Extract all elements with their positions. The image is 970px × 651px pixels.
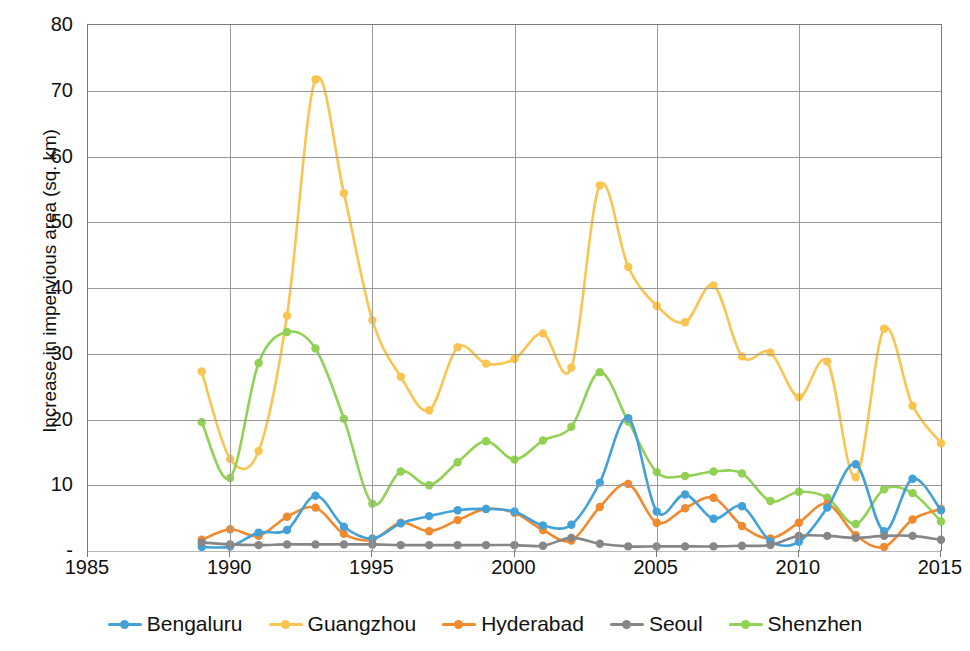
data-point <box>709 467 717 475</box>
series-bengaluru <box>198 414 946 551</box>
data-point <box>311 344 319 352</box>
data-point <box>539 542 547 550</box>
data-point <box>738 522 746 530</box>
y-axis-tick-label: 30 <box>13 341 73 364</box>
gridline-horizontal <box>88 551 941 552</box>
gridline-vertical <box>230 25 231 551</box>
x-axis-tick-mark <box>229 550 230 557</box>
data-point <box>482 359 490 367</box>
x-axis-tick-mark <box>514 550 515 557</box>
data-point <box>908 474 916 482</box>
data-point <box>425 512 433 520</box>
data-point <box>596 503 604 511</box>
data-point <box>254 447 262 455</box>
data-point <box>567 363 575 371</box>
data-point <box>738 542 746 550</box>
data-point <box>425 541 433 549</box>
data-point <box>852 534 860 542</box>
data-point <box>453 343 461 351</box>
x-axis-tick-label: 2000 <box>454 556 574 579</box>
data-point <box>908 401 916 409</box>
data-point <box>624 480 632 488</box>
data-point <box>908 515 916 523</box>
legend-item-seoul[interactable]: Seoul <box>610 612 703 636</box>
data-point <box>880 325 888 333</box>
data-point <box>852 520 860 528</box>
data-point <box>453 458 461 466</box>
data-point <box>709 542 717 550</box>
data-point <box>397 519 405 527</box>
x-axis-tick-mark <box>87 550 88 557</box>
data-point <box>738 469 746 477</box>
data-point <box>340 530 348 538</box>
legend-marker-icon <box>729 617 763 631</box>
data-point <box>254 541 262 549</box>
data-point <box>283 328 291 336</box>
data-point <box>596 181 604 189</box>
data-point <box>681 472 689 480</box>
gridline-vertical <box>372 25 373 551</box>
data-point <box>283 540 291 548</box>
x-axis-tick-mark <box>798 550 799 557</box>
gridline-vertical <box>799 25 800 551</box>
data-point <box>397 541 405 549</box>
legend-label: Seoul <box>649 612 703 636</box>
gridline-vertical <box>657 25 658 551</box>
data-point <box>880 485 888 493</box>
data-point <box>482 437 490 445</box>
data-point <box>283 526 291 534</box>
data-point <box>567 521 575 529</box>
x-axis-tick-labels: 1985199019952000200520102015 <box>0 556 970 596</box>
data-point <box>766 348 774 356</box>
data-point <box>283 513 291 521</box>
plot-area <box>87 24 942 551</box>
data-point <box>397 467 405 475</box>
x-axis-tick-label: 1985 <box>27 556 147 579</box>
data-point <box>937 517 945 525</box>
y-axis-tick-label: 20 <box>13 407 73 430</box>
x-axis-tick-label: 2015 <box>880 556 970 579</box>
legend-marker-icon <box>269 617 303 631</box>
data-point <box>681 542 689 550</box>
data-point <box>823 503 831 511</box>
data-point <box>738 502 746 510</box>
legend-item-shenzhen[interactable]: Shenzhen <box>729 612 863 636</box>
y-axis-tick-label: 40 <box>13 276 73 299</box>
data-point <box>482 541 490 549</box>
data-point <box>624 263 632 271</box>
data-point <box>766 541 774 549</box>
data-point <box>340 540 348 548</box>
chart-figure: Increase in impervious area (sq. km) -10… <box>0 0 970 651</box>
data-point <box>681 318 689 326</box>
data-point <box>539 436 547 444</box>
data-point <box>425 527 433 535</box>
data-point <box>596 368 604 376</box>
chart-legend: BengaluruGuangzhouHyderabadSeoulShenzhen <box>0 612 970 636</box>
series-seoul <box>198 532 946 551</box>
data-point <box>709 515 717 523</box>
x-axis-tick-label: 2005 <box>596 556 716 579</box>
legend-label: Shenzhen <box>768 612 863 636</box>
data-point <box>937 506 945 514</box>
legend-item-bengaluru[interactable]: Bengaluru <box>108 612 243 636</box>
data-point <box>567 423 575 431</box>
legend-marker-icon <box>108 617 142 631</box>
data-point <box>596 540 604 548</box>
data-point <box>880 543 888 551</box>
legend-item-hyderabad[interactable]: Hyderabad <box>442 612 584 636</box>
data-point <box>482 505 490 513</box>
data-point <box>937 439 945 447</box>
x-axis-tick-label: 1995 <box>311 556 431 579</box>
data-point <box>453 506 461 514</box>
data-point <box>681 490 689 498</box>
data-point <box>397 373 405 381</box>
data-point <box>539 521 547 529</box>
data-point <box>198 367 206 375</box>
data-point <box>254 359 262 367</box>
x-axis-tick-label: 1990 <box>169 556 289 579</box>
legend-item-guangzhou[interactable]: Guangzhou <box>269 612 417 636</box>
legend-label: Guangzhou <box>308 612 417 636</box>
x-axis-tick-label: 2010 <box>738 556 858 579</box>
data-point <box>624 542 632 550</box>
data-point <box>823 532 831 540</box>
